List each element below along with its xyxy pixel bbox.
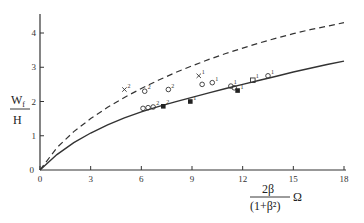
marker-x: 1	[197, 69, 205, 78]
svg-text:Wf: Wf	[11, 93, 25, 109]
ylabel-denominator: H	[13, 113, 22, 127]
svg-text:1: 1	[215, 76, 218, 82]
x-tick-label: 15	[289, 174, 299, 184]
solid-curve	[40, 61, 344, 170]
x-ticks: 0369121518	[38, 166, 349, 184]
svg-text:2: 2	[127, 83, 130, 89]
data-markers: 222221111111	[122, 69, 274, 111]
x-axis-label: 2β (1+β²) Ω	[250, 182, 302, 213]
xlabel-omega: Ω	[293, 190, 302, 204]
axes: 0369121518 01234	[30, 14, 350, 184]
marker-o: 2	[142, 84, 150, 93]
svg-text:1: 1	[271, 69, 274, 75]
marker-o	[141, 106, 146, 111]
ylabel-numerator: W	[11, 93, 23, 107]
svg-text:1: 1	[241, 84, 244, 90]
marker-square-filled: 1	[188, 95, 196, 104]
svg-text:1: 1	[193, 95, 196, 101]
x-tick-label: 0	[38, 174, 43, 184]
marker-o: 2	[166, 83, 174, 92]
svg-text:2: 2	[148, 84, 151, 90]
y-tick-label: 1	[32, 131, 37, 141]
svg-text:2: 2	[166, 99, 169, 105]
x-tick-label: 3	[88, 174, 93, 184]
x-tick-label: 9	[190, 174, 195, 184]
y-tick-label: 2	[32, 97, 37, 107]
chart-plot: 0369121518 01234 Wf H 2β (1+β²) Ω 222221…	[0, 0, 364, 223]
xlabel-denominator: (1+β²)	[250, 199, 280, 213]
svg-text:1: 1	[202, 69, 205, 75]
ylabel-subscript: f	[22, 100, 25, 109]
svg-text:2: 2	[171, 83, 174, 89]
dashed-curve	[40, 23, 344, 170]
svg-text:2: 2	[156, 100, 159, 106]
y-axis-label: Wf H	[10, 93, 30, 127]
svg-text:1: 1	[234, 79, 237, 85]
y-ticks: 01234	[30, 28, 45, 175]
y-tick-label: 0	[30, 165, 35, 175]
svg-text:1: 1	[256, 73, 259, 79]
x-tick-label: 12	[238, 174, 247, 184]
x-tick-label: 6	[139, 174, 144, 184]
marker-o: 1	[210, 76, 218, 85]
y-tick-label: 4	[32, 28, 37, 38]
marker-x: 2	[122, 83, 130, 92]
xlabel-numerator: 2β	[262, 182, 274, 196]
y-tick-label: 3	[32, 62, 37, 72]
marker-o	[200, 82, 205, 87]
x-tick-label: 18	[340, 174, 350, 184]
